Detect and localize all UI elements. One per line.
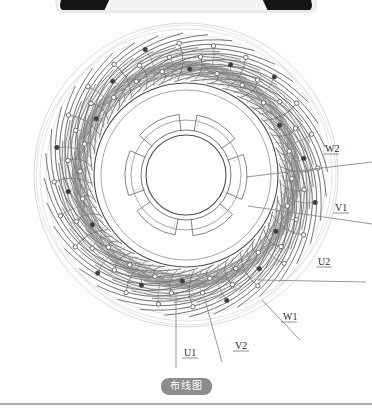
- winding-layer-back: [52, 41, 320, 309]
- terminal-marker: [66, 189, 70, 193]
- wiring-diagram: 1357911131517192123252729313335373941434…: [0, 20, 372, 380]
- terminal-marker: [156, 302, 160, 306]
- slot-number-label: 27: [283, 249, 287, 253]
- terminal-marker: [89, 101, 93, 105]
- terminal-marker: [255, 78, 259, 82]
- terminal-marker: [294, 217, 298, 221]
- lead-label-v1: V1: [335, 202, 347, 213]
- terminal-marker: [52, 180, 56, 184]
- terminal-marker: [128, 263, 132, 267]
- slot-number-label: 23: [290, 207, 294, 211]
- terminal-marker: [78, 169, 82, 173]
- terminal-marker: [211, 44, 215, 48]
- slot-number-label: 65: [109, 92, 113, 96]
- slot-number-label: 39: [168, 296, 172, 300]
- slot-number-label: 55: [86, 178, 90, 182]
- slot-number-label: 13: [267, 121, 271, 125]
- caption-row: 布线图: [0, 375, 372, 395]
- lead-wire-v2: [205, 300, 222, 362]
- terminal-marker: [81, 197, 85, 201]
- slot-number-label: 45: [109, 272, 113, 276]
- cut-off-toolbar: [0, 0, 372, 22]
- lead-label-w1: W1: [283, 311, 297, 322]
- terminal-marker: [74, 219, 78, 223]
- lead-wire-v1: [248, 206, 372, 224]
- stator-core: [94, 83, 278, 267]
- terminal-marker: [74, 128, 78, 132]
- slot-number-label: 15: [299, 126, 303, 130]
- lead-label-u2: U2: [318, 256, 330, 267]
- terminal-marker: [153, 274, 157, 278]
- slot-number-label: 29: [259, 255, 263, 259]
- toolbar-underline: [60, 10, 312, 12]
- slot-number-label: 33: [232, 288, 236, 292]
- slot-number-label: 57: [61, 157, 65, 161]
- slot-number-label: 51: [70, 221, 74, 225]
- terminal-marker: [111, 79, 115, 83]
- terminal-marker: [200, 291, 204, 295]
- slot-number-label: 17: [293, 149, 297, 153]
- terminal-marker: [230, 282, 234, 286]
- toolbar-right-bevel: [260, 0, 312, 11]
- phase-lead-callouts: W2V1U2W1V2U1: [176, 143, 372, 368]
- lead-wire-u2: [258, 280, 366, 282]
- slot-number-label: 63: [86, 98, 90, 102]
- slot-number-labels: 1357911131517192123252729313335373941434…: [61, 50, 311, 300]
- terminal-marker: [198, 55, 202, 59]
- terminal-marker: [272, 75, 276, 79]
- slot-number-label: 25: [271, 219, 275, 223]
- slot-number-label: 71: [160, 65, 164, 69]
- terminal-markers: [52, 41, 320, 309]
- terminal-marker: [137, 63, 141, 67]
- terminal-marker: [313, 200, 317, 204]
- terminal-marker: [55, 145, 59, 149]
- slot-number-label: 53: [76, 198, 80, 202]
- terminal-marker: [302, 156, 306, 160]
- terminal-marker: [96, 271, 100, 275]
- terminal-marker: [256, 250, 260, 254]
- terminal-marker: [90, 223, 94, 227]
- diagram-caption-badge: 布线图: [161, 378, 212, 395]
- cut-off-toolbar-graphic: [0, 0, 372, 22]
- terminal-marker: [257, 267, 261, 271]
- slot-number-label: 9: [261, 75, 263, 79]
- terminal-marker: [278, 100, 282, 104]
- toolbar-left-bevel: [60, 0, 112, 11]
- terminal-marker: [177, 41, 181, 45]
- terminal-marker: [58, 214, 62, 218]
- slot-number-label: 3: [201, 50, 203, 54]
- terminal-marker: [277, 123, 281, 127]
- slot-number-label: 67: [131, 91, 135, 95]
- terminal-marker: [301, 233, 305, 237]
- wiring-diagram-graphic: 1357911131517192123252729313335373941434…: [0, 20, 372, 380]
- slot-number-label: 21: [307, 189, 311, 193]
- terminal-marker: [274, 229, 278, 233]
- terminal-marker: [66, 158, 70, 162]
- terminal-marker: [240, 83, 244, 87]
- lead-label-u1: U1: [184, 347, 196, 358]
- terminal-marker: [191, 305, 195, 309]
- slot-number-label: 7: [230, 86, 232, 90]
- terminal-marker: [256, 284, 260, 288]
- terminal-marker: [112, 95, 116, 99]
- terminal-marker: [134, 79, 138, 83]
- terminal-marker: [167, 55, 171, 59]
- page-divider: [0, 403, 372, 405]
- slot-number-label: 1: [181, 76, 183, 80]
- terminal-marker: [309, 132, 313, 136]
- terminal-marker: [160, 70, 164, 74]
- terminal-marker: [66, 113, 70, 117]
- terminal-marker: [215, 71, 219, 75]
- terminal-marker: [282, 261, 286, 265]
- slot-number-label: 61: [97, 128, 101, 132]
- slot-number-label: 37: [189, 271, 193, 275]
- slot-number-label: 43: [139, 260, 143, 264]
- terminal-marker: [287, 149, 291, 153]
- terminal-marker: [73, 245, 77, 249]
- terminal-marker: [143, 47, 147, 51]
- lead-label-v2: V2: [235, 340, 247, 351]
- slot-number-label: 47: [103, 249, 107, 253]
- terminal-marker: [112, 268, 116, 272]
- slot-number-label: 11: [266, 98, 270, 102]
- terminal-marker: [295, 101, 299, 105]
